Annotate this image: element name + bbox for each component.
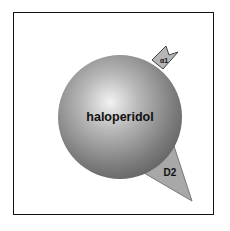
- alpha1-label: α1: [160, 57, 168, 64]
- haloperidol-label: haloperidol: [86, 110, 153, 124]
- diagram-canvas: haloperidol α1 D2: [0, 0, 230, 231]
- d2-label: D2: [164, 167, 177, 178]
